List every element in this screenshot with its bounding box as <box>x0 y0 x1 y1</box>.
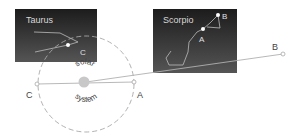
point-a-label: A <box>137 90 143 100</box>
scorpio-star-a <box>201 27 205 31</box>
taurus-label: Taurus <box>26 15 54 25</box>
scorpio-star-a-label: A <box>199 35 205 44</box>
point-b-label: B <box>272 42 278 52</box>
taurus-star-c <box>66 43 70 47</box>
scorpio-label: Scorpio <box>163 15 194 25</box>
taurus-panel: Taurus C <box>15 9 97 62</box>
point-a <box>132 80 136 84</box>
system-label: system <box>73 91 99 104</box>
solar-system-dot <box>79 77 90 88</box>
scorpio-star-b <box>216 13 220 17</box>
point-c <box>35 82 39 86</box>
scorpio-panel: Scorpio A B <box>153 9 237 73</box>
taurus-star-c-label: C <box>80 48 86 57</box>
point-c-label: C <box>26 90 33 100</box>
scorpio-star-b-label: B <box>222 12 227 21</box>
point-b <box>281 52 285 56</box>
parallax-diagram: Taurus C Scorpio A B C A B solar system <box>0 0 301 140</box>
